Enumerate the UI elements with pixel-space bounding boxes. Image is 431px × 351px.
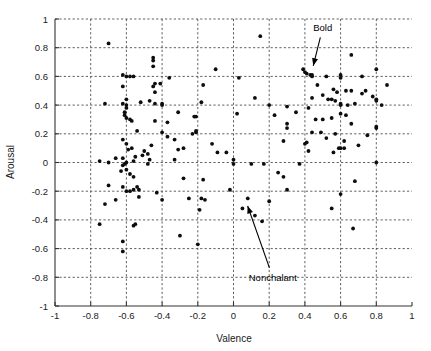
y-tick-label: -0.8 — [32, 272, 48, 283]
x-tick-label: 1 — [409, 310, 414, 321]
data-point — [121, 185, 125, 189]
data-point — [282, 139, 286, 143]
data-point — [121, 163, 125, 167]
data-point — [173, 158, 177, 162]
data-point — [332, 151, 336, 155]
data-point — [342, 139, 346, 143]
data-point — [130, 146, 134, 150]
data-point — [196, 242, 200, 246]
data-point — [285, 105, 289, 109]
data-point — [114, 198, 118, 202]
data-point — [148, 158, 152, 162]
data-point — [194, 115, 198, 119]
x-axis-title: Valence — [216, 333, 252, 344]
scatter-plot-figure: -1-0.8-0.6-0.4-0.200.20.40.60.81 10.80.6… — [0, 0, 431, 351]
data-point — [210, 142, 214, 146]
data-point — [141, 153, 145, 157]
data-point — [324, 75, 328, 79]
data-point — [133, 155, 137, 159]
y-tick-label: 0.2 — [35, 128, 48, 139]
data-point — [132, 188, 136, 192]
data-point — [298, 162, 302, 166]
data-point — [149, 143, 153, 147]
data-point — [371, 95, 375, 99]
data-point — [151, 64, 155, 68]
data-point — [199, 100, 203, 104]
data-point — [321, 118, 325, 122]
data-point — [160, 103, 164, 107]
data-point — [380, 103, 384, 107]
data-point — [103, 202, 107, 206]
x-tick-label: 0.6 — [334, 310, 347, 321]
data-point — [344, 113, 348, 117]
y-tick-label: -0.6 — [32, 243, 48, 254]
data-point — [276, 171, 280, 175]
data-point — [246, 196, 250, 200]
data-point — [253, 214, 257, 218]
data-point — [160, 198, 164, 202]
y-tick-label: 0.4 — [35, 100, 48, 111]
data-point — [385, 83, 389, 87]
data-point — [282, 175, 286, 179]
data-point — [160, 130, 164, 134]
annotation-label-nonchalant: Nonchalant — [249, 272, 297, 283]
y-tick-label: 0.8 — [35, 42, 48, 53]
data-point — [267, 199, 271, 203]
data-point — [121, 73, 125, 77]
data-point — [349, 89, 353, 93]
data-point — [353, 179, 357, 183]
x-tick-label: -0.4 — [154, 310, 170, 321]
data-point — [310, 130, 314, 134]
data-point — [324, 136, 328, 140]
data-point — [201, 83, 205, 87]
data-point — [194, 130, 198, 134]
data-point — [151, 59, 155, 63]
data-point — [349, 122, 353, 126]
data-point — [305, 72, 309, 76]
data-point — [176, 148, 180, 152]
y-axis-tick-labels: 10.80.60.40.20-0.2-0.4-0.6-0.8-1 — [32, 14, 48, 312]
data-point — [374, 125, 378, 129]
data-point — [153, 102, 157, 106]
data-point — [167, 76, 171, 80]
data-point — [98, 159, 102, 163]
data-point — [333, 132, 337, 136]
data-point — [132, 175, 136, 179]
data-point — [107, 161, 111, 165]
y-tick-label: -0.4 — [32, 214, 48, 225]
data-point — [166, 120, 170, 124]
data-point — [137, 188, 141, 192]
data-point — [364, 89, 368, 93]
data-point — [326, 97, 330, 101]
data-point — [273, 113, 277, 117]
annotation-label-bold: Bold — [313, 22, 332, 33]
x-tick-label: -0.6 — [118, 310, 134, 321]
data-point — [216, 151, 220, 155]
data-point — [339, 112, 343, 116]
data-point — [132, 159, 136, 163]
data-point — [330, 97, 334, 101]
data-point — [201, 178, 205, 182]
y-tick-label: 0.6 — [35, 71, 48, 82]
data-point — [182, 146, 186, 150]
x-tick-label: 0 — [231, 310, 236, 321]
data-point — [121, 102, 125, 106]
data-points-layer — [98, 34, 389, 253]
data-point — [374, 99, 378, 103]
y-tick-label: -0.2 — [32, 186, 48, 197]
data-point — [335, 90, 339, 94]
data-point — [182, 176, 186, 180]
data-point — [132, 75, 136, 79]
data-point — [374, 67, 378, 71]
data-point — [267, 103, 271, 107]
data-point — [339, 146, 343, 150]
x-axis-tick-labels: -1-0.8-0.6-0.4-0.200.20.40.60.81 — [51, 310, 415, 321]
y-tick-label: -1 — [40, 301, 48, 312]
data-point — [125, 168, 129, 172]
data-point — [119, 169, 123, 173]
data-point — [339, 103, 343, 107]
data-point — [148, 99, 152, 103]
data-point — [330, 116, 334, 120]
x-tick-label: -1 — [51, 310, 59, 321]
data-point — [353, 102, 357, 106]
